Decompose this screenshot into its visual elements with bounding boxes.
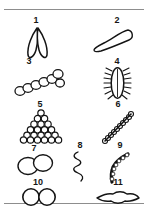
figure-10-drawing: [18, 188, 62, 208]
figure-9-label: 9: [110, 141, 130, 150]
figure-1-label: 1: [26, 16, 46, 25]
figure-7-label: 7: [24, 144, 44, 153]
figure-3-drawing: [14, 67, 66, 97]
figure-2-drawing: [92, 27, 136, 57]
figure-8-label: 8: [70, 141, 90, 150]
figure-6-label: 6: [108, 100, 128, 109]
figure-5-label: 5: [30, 100, 50, 109]
figure-plate: 1 2 3: [0, 0, 148, 214]
figure-4-label: 4: [107, 57, 127, 66]
figure-5-drawing: [13, 109, 69, 143]
figure-7-drawing: [15, 153, 59, 177]
figure-3-label: 3: [19, 57, 39, 66]
figure-2-label: 2: [107, 16, 127, 25]
figure-4-drawing: [103, 66, 133, 102]
figure-11-label: 11: [108, 178, 128, 187]
top-divider-rule: [4, 9, 144, 10]
figure-8-drawing: [70, 151, 96, 183]
figure-10-label: 10: [28, 178, 48, 187]
figure-11-drawing: [95, 189, 141, 207]
